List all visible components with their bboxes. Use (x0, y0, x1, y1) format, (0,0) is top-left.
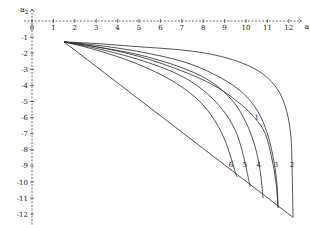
x-tick-label: 11 (263, 24, 272, 32)
x-tick-label: 7 (180, 24, 184, 32)
x-tick-label: 5 (137, 24, 141, 32)
y-tick-label: -9 (21, 162, 28, 170)
y-tick-label: -11 (17, 195, 28, 203)
x-tick-label: 3 (94, 24, 98, 32)
y-ticks: -1-2-3-4-5-6-7-8-9-10-11-12 (17, 34, 34, 219)
y-tick-label: -4 (21, 82, 28, 90)
x-tick-label: 1 (51, 24, 55, 32)
curve-label-3: 3 (274, 161, 278, 169)
chart: a1 a2 0123456789101112 -1-2-3-4-5-6-7-8-… (0, 0, 309, 225)
x-tick-label: 0 (30, 24, 34, 32)
y-tick-label: -7 (21, 130, 28, 138)
y-tick-label: -6 (21, 114, 28, 122)
y-tick-label: -2 (21, 50, 28, 58)
x-tick-label: 4 (115, 24, 120, 32)
x-tick-label: 8 (201, 24, 205, 32)
curve-4 (64, 42, 263, 198)
y-tick-label: -10 (17, 179, 28, 187)
x-tick-label: 10 (242, 24, 251, 32)
curve-label-4: 4 (257, 161, 262, 169)
y-tick-label: -12 (17, 211, 28, 219)
axes: a1 a2 (20, 5, 309, 225)
x-axis-title: a1 (305, 22, 310, 32)
y-tick-label: -1 (21, 34, 28, 42)
curve-label-2: 2 (290, 161, 294, 169)
x-tick-label: 6 (158, 24, 163, 32)
curve-label-6: 6 (229, 161, 234, 169)
y-tick-label: -3 (21, 66, 28, 74)
boundary-line (64, 42, 293, 217)
curve-label-5: 5 (243, 161, 247, 169)
boundary-group (64, 42, 293, 217)
curve-label-1: 1 (254, 114, 258, 122)
y-tick-label: -8 (21, 146, 28, 154)
curve-labels: 123456 (229, 114, 294, 169)
x-tick-label: 12 (284, 24, 293, 32)
y-tick-label: -5 (21, 98, 28, 106)
x-tick-label: 2 (73, 24, 77, 32)
x-tick-label: 9 (222, 24, 226, 32)
y-axis-title: a2 (20, 5, 28, 15)
